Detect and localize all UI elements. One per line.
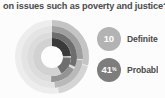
legend-label-definitely: Definite (127, 34, 158, 44)
legend-badge-definitely: 10 (97, 27, 121, 51)
page-title: on issues such as poverty and justice? (3, 0, 165, 13)
chart-svg (8, 19, 96, 95)
legend-label-probably: Probabl (127, 65, 158, 75)
infographic-screenshot: on issues such as poverty and justice? (0, 0, 165, 98)
radial-donut-chart (8, 19, 96, 95)
chart-center-hub (42, 47, 63, 68)
legend-value-probably: 41 (102, 65, 112, 75)
legend-value-definitely: 10 (104, 34, 114, 44)
legend-item-definitely[interactable]: 10 Definite (97, 26, 165, 52)
legend-item-probably[interactable]: 41% Probabl (97, 57, 165, 83)
legend-badge-probably: 41% (97, 58, 121, 82)
chart-legend: 10 Definite 41% Probabl (97, 26, 165, 88)
legend-suffix-probably: % (112, 67, 116, 72)
